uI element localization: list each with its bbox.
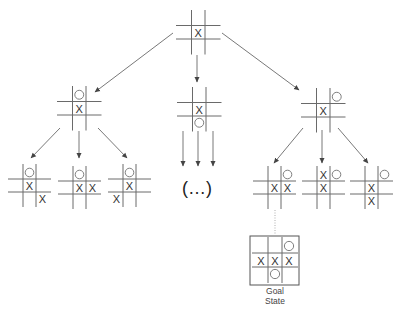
x-mark-icon: X bbox=[26, 180, 34, 192]
x-mark-icon: X bbox=[76, 182, 84, 194]
o-mark-icon bbox=[332, 170, 341, 179]
state-label: State bbox=[265, 296, 285, 306]
tree-edge-arrow bbox=[338, 128, 368, 163]
board-level2-2: XX bbox=[58, 166, 101, 209]
x-mark-icon: X bbox=[126, 180, 134, 192]
o-mark-icon bbox=[125, 168, 134, 177]
x-mark-icon: X bbox=[195, 27, 203, 39]
board-level1-middle: X bbox=[177, 87, 222, 132]
tree-edge-arrow bbox=[274, 128, 303, 163]
x-mark-icon: X bbox=[320, 182, 328, 194]
board-level2-1: XX bbox=[8, 164, 51, 207]
x-mark-icon: X bbox=[284, 182, 292, 194]
x-mark-icon: X bbox=[320, 169, 328, 181]
tree-nodes: XXXXXXXXXXXXXXXXXXX bbox=[8, 10, 393, 283]
game-tree-diagram: XXXXXXXXXXXXXXXXXXX (…) Goal State bbox=[0, 0, 398, 311]
board-goal: XXX bbox=[252, 237, 298, 283]
x-mark-icon: X bbox=[271, 182, 279, 194]
x-mark-icon: X bbox=[196, 104, 204, 116]
tree-edges bbox=[31, 33, 368, 166]
x-mark-icon: X bbox=[113, 193, 121, 205]
board-level2-4: XX bbox=[253, 166, 296, 209]
tree-edge-arrow bbox=[222, 33, 299, 90]
board-level2-6: XX bbox=[350, 166, 393, 209]
x-mark-icon: X bbox=[271, 255, 279, 267]
x-mark-icon: X bbox=[320, 105, 328, 117]
board-level1-right: X bbox=[301, 88, 346, 133]
x-mark-icon: X bbox=[89, 182, 97, 194]
more-nodes-ellipsis: (…) bbox=[182, 178, 212, 198]
x-mark-icon: X bbox=[257, 255, 265, 267]
o-mark-icon bbox=[284, 241, 293, 250]
o-mark-icon bbox=[380, 170, 389, 179]
x-mark-icon: X bbox=[368, 182, 376, 194]
o-mark-icon bbox=[332, 92, 341, 101]
x-mark-icon: X bbox=[39, 193, 47, 205]
x-mark-icon: X bbox=[285, 255, 293, 267]
board-level2-3: XX bbox=[108, 164, 151, 207]
o-mark-icon bbox=[195, 118, 204, 127]
goal-label: Goal bbox=[266, 286, 284, 296]
o-mark-icon bbox=[283, 170, 292, 179]
o-mark-icon bbox=[270, 269, 279, 278]
o-mark-icon bbox=[75, 90, 84, 99]
tree-edge-arrow bbox=[95, 33, 173, 92]
o-mark-icon bbox=[75, 170, 84, 179]
x-mark-icon: X bbox=[368, 195, 376, 207]
tree-edge-arrow bbox=[98, 128, 127, 158]
x-mark-icon: X bbox=[76, 103, 84, 115]
o-mark-icon bbox=[25, 168, 34, 177]
board-level2-5: XX bbox=[302, 166, 345, 209]
tree-edge-arrow bbox=[31, 128, 60, 158]
board-level1-left: X bbox=[57, 86, 102, 131]
board-root: X bbox=[176, 10, 221, 55]
